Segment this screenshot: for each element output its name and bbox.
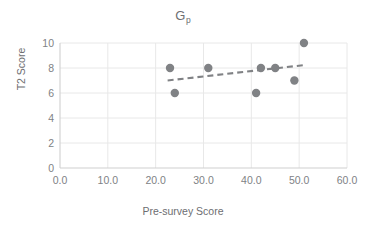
x-axis-tick-labels: 0.010.020.030.040.050.060.0 xyxy=(60,174,347,192)
data-point[interactable] xyxy=(171,89,179,97)
data-point[interactable] xyxy=(257,64,265,72)
data-point[interactable] xyxy=(300,39,308,47)
y-tick-label: 6 xyxy=(8,87,54,99)
chart-title-base: G xyxy=(175,8,185,23)
plot-area xyxy=(60,43,347,168)
scatter-chart: Gp T2 Score Pre-survey Score 0246810 0.0… xyxy=(0,0,366,230)
data-point[interactable] xyxy=(204,64,212,72)
y-tick-label: 10 xyxy=(8,37,54,49)
chart-title-subscript: p xyxy=(186,15,191,25)
data-point[interactable] xyxy=(252,89,260,97)
trendline xyxy=(168,65,307,81)
x-tick-label: 60.0 xyxy=(321,174,366,186)
data-point[interactable] xyxy=(290,76,298,84)
data-point[interactable] xyxy=(271,64,279,72)
x-tick-label: 30.0 xyxy=(178,174,230,186)
chart-title: Gp xyxy=(0,8,366,23)
y-tick-label: 4 xyxy=(8,112,54,124)
y-tick-label: 8 xyxy=(8,62,54,74)
plot-svg xyxy=(60,43,347,168)
data-point[interactable] xyxy=(166,64,174,72)
y-tick-label: 0 xyxy=(8,162,54,174)
y-axis-tick-labels: 0246810 xyxy=(8,43,54,168)
y-tick-label: 2 xyxy=(8,137,54,149)
x-tick-label: 40.0 xyxy=(225,174,277,186)
x-axis-title: Pre-survey Score xyxy=(0,205,366,217)
x-tick-label: 0.0 xyxy=(34,174,86,186)
x-tick-label: 20.0 xyxy=(130,174,182,186)
x-tick-label: 50.0 xyxy=(273,174,325,186)
x-tick-label: 10.0 xyxy=(82,174,134,186)
